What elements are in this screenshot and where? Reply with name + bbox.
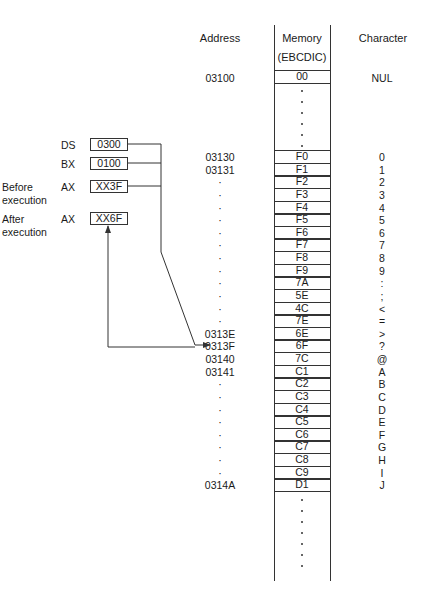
address-arrow xyxy=(161,144,210,345)
connector-lines xyxy=(0,0,421,605)
result-arrow xyxy=(108,226,195,347)
